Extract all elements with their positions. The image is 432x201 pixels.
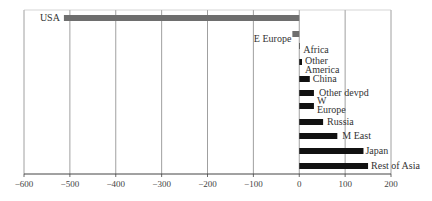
bar-e-europe bbox=[292, 31, 299, 37]
category-label: Russia bbox=[327, 116, 354, 127]
bar-chart: USAE EuropeAfricaOtherAmericaChinaOther … bbox=[0, 0, 432, 201]
x-tick-label: −100 bbox=[244, 179, 263, 189]
category-label: WEurope bbox=[317, 95, 346, 115]
category-label: E Europe bbox=[254, 33, 292, 44]
bar-russia bbox=[299, 119, 323, 125]
x-tick-label: −400 bbox=[106, 179, 125, 189]
x-tick-label: −200 bbox=[198, 179, 217, 189]
category-label: M East bbox=[342, 130, 371, 141]
x-tick-label: 200 bbox=[384, 179, 398, 189]
x-tick-label: −300 bbox=[152, 179, 171, 189]
bar-other-america bbox=[299, 59, 302, 65]
bar-usa bbox=[64, 15, 299, 21]
x-tick-label: −500 bbox=[61, 179, 80, 189]
category-label: China bbox=[313, 73, 337, 84]
x-tick-label: −600 bbox=[15, 179, 34, 189]
category-label: Africa bbox=[303, 44, 329, 55]
bar-japan bbox=[299, 148, 363, 154]
x-tick-label: 0 bbox=[297, 179, 302, 189]
bar-africa bbox=[299, 43, 300, 49]
category-label: Japan bbox=[365, 145, 388, 156]
category-labels: USAE EuropeAfricaOtherAmericaChinaOther … bbox=[40, 12, 421, 171]
bar-rest-of-asia bbox=[299, 163, 368, 169]
bar-m-east bbox=[299, 133, 337, 139]
x-axis: −600−500−400−300−200−1000100200 bbox=[15, 174, 399, 189]
bar-china bbox=[299, 76, 310, 82]
bar-w-europe bbox=[299, 103, 314, 109]
bar-other-devpd bbox=[299, 90, 314, 96]
x-tick-label: 100 bbox=[338, 179, 352, 189]
category-label: Rest of Asia bbox=[371, 160, 420, 171]
category-label: OtherAmerica bbox=[305, 55, 340, 75]
category-label: USA bbox=[40, 12, 61, 23]
